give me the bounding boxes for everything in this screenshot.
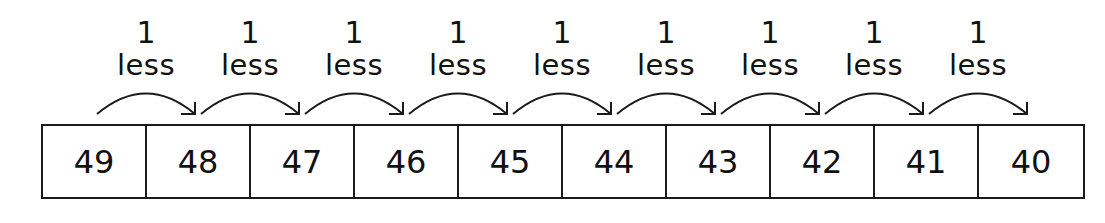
number-box: 48 [147,126,251,197]
jump-arrow-icon [825,94,923,115]
number-box: 41 [875,126,979,197]
jump-arrow-icon [305,94,403,115]
number-boxes-row: 49484746454443424140 [41,124,1085,199]
jump-arrow-icon [721,94,819,115]
number-box: 47 [251,126,355,197]
number-box: 40 [979,126,1083,197]
jump-arrow-icon [513,94,611,115]
jump-arrow-icon [201,94,299,115]
jump-arrow-icon [409,94,507,115]
number-box: 42 [771,126,875,197]
number-box: 44 [563,126,667,197]
jump-arrow-icon [617,94,715,115]
number-box: 45 [459,126,563,197]
jump-arrow-icon [97,94,195,115]
number-box: 43 [667,126,771,197]
number-box: 46 [355,126,459,197]
number-line-diagram: 1less1less1less1less1less1less1less1less… [0,0,1105,223]
number-box: 49 [43,126,147,197]
jump-arrow-icon [929,94,1027,115]
